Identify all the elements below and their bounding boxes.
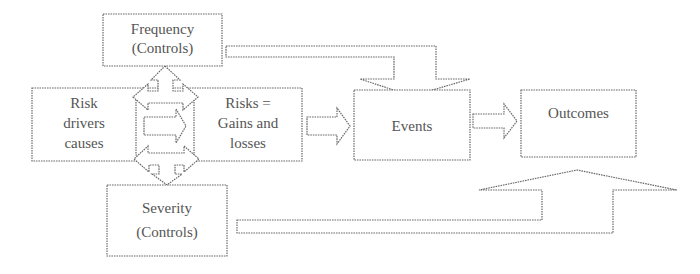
frequency-label-line2: (Controls) bbox=[103, 39, 222, 58]
risk-drivers-label-line2: drivers bbox=[32, 113, 136, 133]
frequency-label-line1: Frequency bbox=[103, 20, 222, 39]
risks-label: Risks = Gains and losses bbox=[194, 93, 302, 153]
risks-to-events-arrow bbox=[307, 108, 350, 144]
severity-label: Severity (Controls) bbox=[107, 196, 227, 244]
risks-label-line1: Risks = bbox=[194, 93, 302, 113]
risk-drivers-label: Risk drivers causes bbox=[32, 93, 136, 153]
outcomes-label-text: Outcomes bbox=[521, 104, 636, 123]
risks-label-line2: Gains and bbox=[194, 113, 302, 133]
severity-label-line1: Severity bbox=[107, 196, 227, 220]
frequency-label: Frequency (Controls) bbox=[103, 20, 222, 58]
outcomes-box bbox=[521, 90, 636, 157]
severity-to-outcomes-arrow bbox=[237, 170, 677, 233]
events-label: Events bbox=[354, 117, 470, 136]
risks-label-line3: losses bbox=[194, 133, 302, 153]
risk-drivers-label-line1: Risk bbox=[32, 93, 136, 113]
events-label-text: Events bbox=[354, 117, 470, 136]
risk-drivers-label-line3: causes bbox=[32, 133, 136, 153]
severity-label-line2: (Controls) bbox=[107, 220, 227, 244]
events-to-outcomes-arrow bbox=[473, 104, 517, 138]
outcomes-label: Outcomes bbox=[521, 104, 636, 123]
